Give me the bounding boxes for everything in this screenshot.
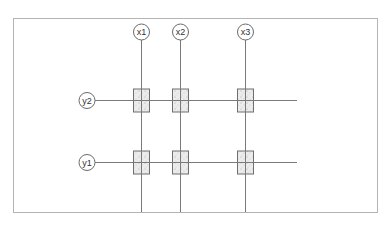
column-x2-y2 bbox=[172, 89, 189, 113]
axis-bubble-y1: y1 bbox=[79, 155, 95, 171]
column-x3-y1 bbox=[237, 151, 254, 175]
axis-label: y1 bbox=[82, 158, 92, 168]
axis-label: x2 bbox=[176, 27, 186, 37]
columns bbox=[133, 89, 254, 175]
axis-bubble-x2: x2 bbox=[173, 24, 189, 40]
column-x3-y2 bbox=[237, 89, 254, 113]
horizontal-grid-lines bbox=[95, 101, 297, 163]
vertical-grid-lines bbox=[142, 40, 246, 212]
grid-diagram: x1x2x3y2y1 bbox=[0, 0, 390, 225]
axis-bubble-y2: y2 bbox=[79, 93, 95, 109]
column-x2-y1 bbox=[172, 151, 189, 175]
axis-label: x3 bbox=[241, 27, 251, 37]
axis-bubble-x1: x1 bbox=[134, 24, 150, 40]
axis-label: x1 bbox=[137, 27, 147, 37]
axis-bubbles: x1x2x3y2y1 bbox=[79, 24, 254, 171]
column-x1-y1 bbox=[133, 151, 150, 175]
column-x1-y2 bbox=[133, 89, 150, 113]
axis-bubble-x3: x3 bbox=[238, 24, 254, 40]
grid-diagram-svg: x1x2x3y2y1 bbox=[0, 0, 390, 225]
drawing-frame bbox=[14, 19, 378, 213]
axis-label: y2 bbox=[82, 96, 92, 106]
